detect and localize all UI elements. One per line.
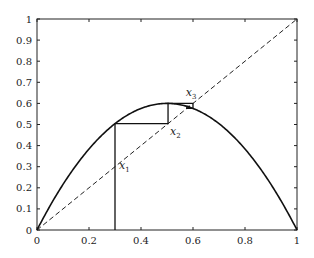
y-tick-label: 0	[26, 225, 32, 236]
iterate-label: x1	[119, 159, 130, 174]
iterate-label: x2	[170, 125, 181, 140]
x-tick-label: 0	[34, 235, 40, 246]
y-tick-label: 0.6	[16, 98, 32, 109]
axes: 00.20.40.60.8100.10.20.30.40.50.60.70.80…	[16, 14, 300, 247]
y-tick-label: 0.8	[16, 56, 32, 67]
y-tick-label: 0.9	[16, 35, 32, 46]
y-tick-label: 0.7	[16, 77, 32, 88]
iterate-label: x3	[186, 86, 197, 101]
x-tick-label: 1	[294, 235, 300, 246]
x-tick-label: 0.4	[133, 235, 149, 246]
plot-area: x1x2x3	[37, 19, 297, 230]
y-tick-label: 0.4	[16, 140, 32, 151]
x-tick-label: 0.6	[185, 235, 201, 246]
y-tick-label: 0.1	[16, 203, 32, 214]
cobweb-chart: 00.20.40.60.8100.10.20.30.40.50.60.70.80…	[0, 0, 314, 258]
x-tick-label: 0.2	[81, 235, 97, 246]
y-tick-label: 1	[26, 14, 32, 25]
y-tick-label: 0.2	[16, 182, 32, 193]
x-tick-label: 0.8	[237, 235, 253, 246]
y-tick-label: 0.5	[16, 119, 32, 130]
identity-line	[37, 19, 297, 230]
y-tick-label: 0.3	[16, 161, 32, 172]
map-curve	[37, 103, 297, 230]
